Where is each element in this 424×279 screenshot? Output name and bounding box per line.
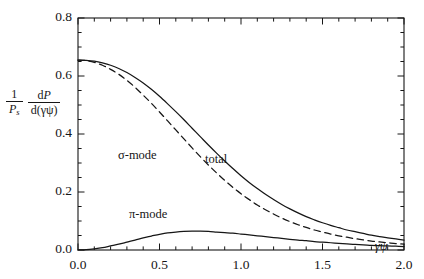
x-tick-label-1.5: 1.5 xyxy=(303,257,343,273)
y-axis-title-inner-fraction: dP d(γψ) xyxy=(28,89,61,117)
x-tick-label-0.0: 0.0 xyxy=(58,257,98,273)
y-axis-title-ps: Ps xyxy=(6,101,23,117)
sigma-mode-label: σ-mode xyxy=(118,148,157,163)
y-tick-label-0.8: 0.8 xyxy=(36,9,72,25)
y-axis-title: 1 Ps dP d(γψ) xyxy=(6,88,60,117)
x-tick-label-2.0: 2.0 xyxy=(384,257,424,273)
y-axis-title-dP: dP xyxy=(34,89,53,102)
axes-frame xyxy=(78,18,404,250)
y-axis-title-outer-fraction: 1 Ps xyxy=(6,88,23,117)
x-tick-label-1.0: 1.0 xyxy=(221,257,261,273)
x-tick-label-0.5: 0.5 xyxy=(140,257,180,273)
y-tick-label-0.0: 0.0 xyxy=(36,241,72,257)
axis-ticks xyxy=(78,18,404,250)
y-axis-title-dgammapsi: d(γψ) xyxy=(28,102,61,116)
y-tick-label-0.2: 0.2 xyxy=(36,183,72,199)
y-tick-label-0.4: 0.4 xyxy=(36,125,72,141)
y-axis-title-one: 1 xyxy=(8,88,20,101)
total-label: total xyxy=(205,152,227,167)
pi-mode-label: π-mode xyxy=(129,207,167,222)
x-axis-title: γψ xyxy=(375,238,388,254)
y-tick-label-0.6: 0.6 xyxy=(36,67,72,83)
figure-panel: 0.00.20.40.60.8 0.00.51.01.52.0 σ-modeto… xyxy=(0,0,424,279)
